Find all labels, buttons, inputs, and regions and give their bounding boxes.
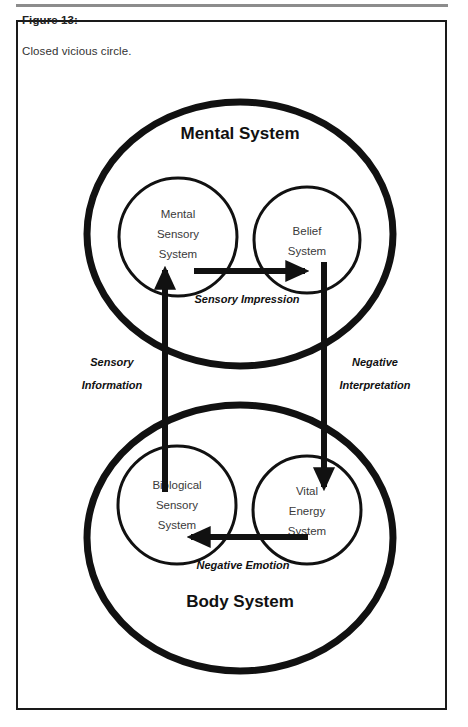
negative-emotion-label: Negative Emotion — [197, 559, 290, 571]
mental-system-title: Mental System — [180, 124, 299, 143]
vital-energy-system-label-line-2: Energy — [289, 505, 326, 517]
sensory-impression-label: Sensory Impression — [194, 293, 299, 305]
vital-energy-system-label-line-1: Vital — [296, 485, 318, 497]
biological-sensory-system-label-line-1: Biological — [152, 479, 201, 491]
vicious-circle-diagram: Mental System Mental Sensory System Beli… — [0, 0, 468, 727]
negative-interpretation-label-line-2: Interpretation — [340, 379, 411, 391]
mental-sensory-system-label-line-2: Sensory — [157, 228, 199, 240]
mental-sensory-system-label-line-3: System — [159, 248, 197, 260]
sensory-information-label-line-1: Sensory — [90, 356, 134, 368]
sensory-information-label-line-2: Information — [82, 379, 143, 391]
negative-interpretation-label-line-1: Negative — [352, 356, 398, 368]
belief-system-label-line-1: Belief — [293, 225, 323, 237]
belief-system-boundary — [254, 187, 360, 293]
figure-page: Figure 13: Closed vicious circle. Mental… — [0, 0, 468, 727]
mental-sensory-system-label-line-1: Mental — [161, 208, 196, 220]
body-system-title: Body System — [186, 592, 294, 611]
belief-system-label-line-2: System — [288, 245, 326, 257]
biological-sensory-system-label-line-2: Sensory — [156, 499, 198, 511]
biological-sensory-system-label-line-3: System — [158, 519, 196, 531]
